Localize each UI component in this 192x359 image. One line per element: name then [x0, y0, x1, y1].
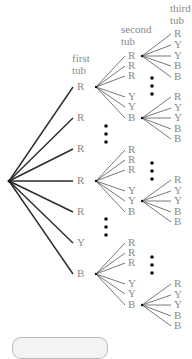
- first-tub-branch: [9, 181, 73, 212]
- first-tub-node: R: [77, 143, 84, 154]
- first-tub-node: B: [77, 268, 84, 279]
- second-tub-branch: [96, 170, 125, 181]
- second-tub-branch: [96, 243, 125, 274]
- third-tub-branch: [142, 295, 171, 305]
- ellipsis-dot: [150, 263, 154, 267]
- header-second-tub-line1: second: [121, 23, 152, 35]
- branch-point-dot: [95, 86, 97, 88]
- first-tub-node: R: [77, 206, 84, 217]
- second-tub-node: B: [128, 112, 135, 123]
- third-tub-branch: [142, 305, 171, 326]
- second-tub-branch: [96, 253, 125, 274]
- ellipsis-dot: [150, 92, 154, 96]
- caption-box: [12, 337, 108, 359]
- third-tub-branch: [142, 201, 171, 222]
- second-tub-branch: [96, 56, 125, 87]
- ellipsis-dot: [150, 84, 154, 88]
- branch-point-dot: [95, 273, 97, 275]
- third-tub-branch: [142, 118, 171, 129]
- branch-point-dot: [141, 55, 143, 57]
- header-first-tub-line1: first: [72, 52, 90, 64]
- second-tub-branch: [96, 76, 125, 87]
- second-tub-branch: [96, 181, 125, 201]
- third-tub-branch: [142, 108, 171, 118]
- ellipsis-dot: [104, 140, 108, 144]
- header-first-tub: first tub: [72, 52, 90, 76]
- header-third-tub: third tub: [170, 2, 191, 26]
- second-tub-branch: [96, 263, 125, 274]
- ellipsis-dot: [104, 124, 108, 128]
- third-tub-node: B: [174, 133, 181, 144]
- third-tub-branch: [142, 284, 171, 305]
- header-second-tub-line2: tub: [121, 35, 152, 47]
- ellipsis-dot: [150, 161, 154, 165]
- first-tub-node: R: [77, 175, 84, 186]
- second-tub-branch: [96, 150, 125, 181]
- ellipsis-dot: [150, 177, 154, 181]
- ellipsis-dot: [104, 217, 108, 221]
- header-first-tub-line2: tub: [72, 64, 90, 76]
- first-tub-branch: [9, 181, 73, 274]
- second-tub-node: R: [128, 257, 135, 268]
- second-tub-branch: [96, 66, 125, 87]
- ellipsis-dot: [150, 76, 154, 80]
- ellipsis-dot: [150, 271, 154, 275]
- root-dot: [8, 180, 11, 183]
- third-tub-branch: [142, 118, 171, 139]
- first-tub-branch: [9, 149, 73, 181]
- third-tub-branch: [142, 201, 171, 212]
- second-tub-node: R: [128, 164, 135, 175]
- second-tub-branch: [96, 274, 125, 294]
- third-tub-node: B: [174, 216, 181, 227]
- ellipsis-dot: [150, 255, 154, 259]
- ellipsis-dot: [150, 169, 154, 173]
- header-third-tub-line2: tub: [170, 14, 191, 26]
- third-tub-branch: [142, 56, 171, 66]
- third-tub-branch: [142, 97, 171, 118]
- third-tub-branch: [142, 56, 171, 77]
- branch-point-dot: [141, 200, 143, 202]
- branch-point-dot: [141, 304, 143, 306]
- third-tub-node: B: [174, 71, 181, 82]
- second-tub-branch: [96, 87, 125, 107]
- branch-point-dot: [141, 117, 143, 119]
- third-tub-branch: [142, 180, 171, 201]
- first-tub-node: R: [77, 112, 84, 123]
- third-tub-node: B: [174, 320, 181, 331]
- third-tub-branch: [142, 305, 171, 316]
- first-tub-branch: [9, 87, 73, 181]
- header-third-tub-line1: third: [170, 2, 191, 14]
- second-tub-node: B: [128, 299, 135, 310]
- ellipsis-dot: [104, 225, 108, 229]
- first-tub-node: Y: [77, 237, 85, 248]
- second-tub-node: R: [128, 70, 135, 81]
- branch-point-dot: [95, 180, 97, 182]
- second-tub-branch: [96, 160, 125, 181]
- ellipsis-dot: [104, 132, 108, 136]
- second-tub-node: B: [128, 206, 135, 217]
- first-tub-branch: [9, 118, 73, 181]
- third-tub-branch: [142, 191, 171, 201]
- header-second-tub: second tub: [121, 23, 152, 47]
- first-tub-node: R: [77, 81, 84, 92]
- ellipsis-dot: [104, 233, 108, 237]
- first-tub-branch: [9, 181, 73, 243]
